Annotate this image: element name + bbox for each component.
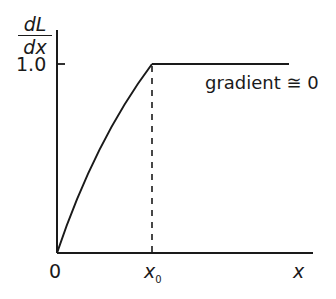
- gradient-annotation: gradient ≅ 0: [205, 74, 319, 92]
- origin-label: 0: [49, 262, 61, 281]
- x-axis-label: x: [293, 262, 304, 281]
- y-tick-label: 1.0: [16, 55, 46, 74]
- y-label-numerator: dL: [18, 14, 52, 36]
- x0-subscript: 0: [155, 274, 161, 285]
- y-axis-label: dL dx: [18, 14, 52, 58]
- x0-base: x: [144, 260, 155, 282]
- x0-label: x0: [144, 262, 162, 285]
- rising-curve: [57, 64, 152, 253]
